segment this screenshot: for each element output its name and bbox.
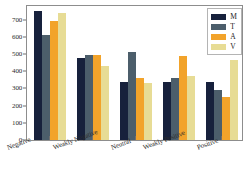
bar-t-negative (42, 35, 50, 140)
legend-item-t[interactable]: T (211, 22, 237, 31)
y-tick-label: 400 (12, 67, 22, 75)
legend-label: T (230, 23, 235, 30)
y-tick-label: 700 (12, 16, 22, 24)
y-tick-label: 600 (12, 33, 22, 41)
bar-a-weakly-positive (179, 56, 187, 140)
x-tick-mark (135, 136, 136, 140)
y-tick-label: 500 (12, 50, 22, 58)
y-tick-label: 200 (12, 102, 22, 110)
legend-swatch-icon (211, 44, 226, 50)
bar-t-positive (214, 90, 222, 140)
legend-swatch-icon (211, 24, 226, 30)
y-tick-label: 100 (12, 119, 22, 127)
bar-m-neutral (120, 82, 128, 140)
bar-t-neutral (128, 52, 136, 140)
y-tick-label: 300 (12, 84, 22, 92)
x-tick-mark (221, 136, 222, 140)
bar-a-positive (222, 97, 230, 140)
bar-m-weakly-negative (77, 58, 85, 140)
bar-v-positive (230, 60, 238, 140)
legend-item-a[interactable]: A (211, 32, 237, 41)
bar-m-negative (34, 11, 42, 140)
bar-a-negative (50, 21, 58, 140)
legend-label: M (230, 13, 237, 20)
legend-label: V (230, 43, 235, 50)
legend-swatch-icon (211, 34, 226, 40)
legend-label: A (230, 33, 235, 40)
bar-group (120, 6, 152, 140)
legend-swatch-icon (211, 14, 226, 20)
x-tick-mark (49, 136, 50, 140)
bar-v-negative (58, 13, 66, 140)
bar-group (34, 6, 66, 140)
bar-group (77, 6, 109, 140)
bar-a-weakly-negative (93, 55, 101, 140)
bar-v-weakly-positive (187, 76, 195, 140)
bar-a-neutral (136, 78, 144, 140)
bar-v-neutral (144, 83, 152, 140)
chart-legend: MTAV (207, 8, 242, 55)
x-axis-labels: NegativeWeakly NegativeNeutralWeakly Pos… (0, 142, 250, 172)
legend-item-v[interactable]: V (211, 42, 237, 51)
bar-v-weakly-negative (101, 66, 109, 140)
bar-t-weakly-negative (85, 55, 93, 140)
bar-m-positive (206, 82, 214, 140)
bar-m-weakly-positive (163, 82, 171, 140)
bar-chart: 0100200300400500600700 NegativeWeakly Ne… (0, 0, 250, 172)
legend-item-m[interactable]: M (211, 12, 237, 21)
bar-group (163, 6, 195, 140)
y-axis: 0100200300400500600700 (0, 5, 26, 141)
